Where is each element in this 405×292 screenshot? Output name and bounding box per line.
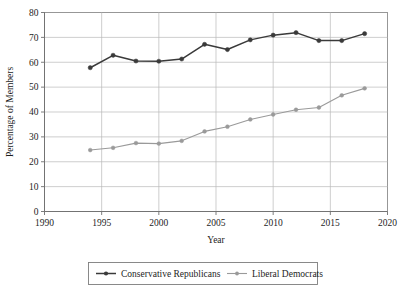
y-tick-label: 20 — [29, 157, 39, 167]
data-point — [225, 47, 229, 51]
x-tick-label: 1990 — [35, 218, 54, 228]
data-point — [88, 148, 92, 152]
data-point — [271, 33, 275, 37]
x-tick-label: 2010 — [264, 218, 283, 228]
legend-swatch-marker — [235, 272, 239, 276]
y-tick-label: 30 — [29, 132, 39, 142]
x-axis-title: Year — [207, 235, 225, 245]
data-point — [363, 32, 367, 36]
y-tick-label: 40 — [29, 107, 39, 117]
data-point — [248, 118, 252, 122]
data-point — [157, 59, 161, 63]
data-point — [271, 113, 275, 117]
x-tick-label: 2020 — [378, 218, 397, 228]
data-point — [111, 53, 115, 57]
legend-label: Conservative Republicans — [121, 269, 221, 279]
data-point — [202, 42, 206, 46]
data-point — [88, 66, 92, 70]
legend-label: Liberal Democrats — [252, 269, 323, 279]
y-tick-label: 50 — [29, 82, 39, 92]
data-point — [134, 141, 138, 145]
data-point — [294, 31, 298, 35]
chart-canvas: 01020304050607080 1990199520002005201020… — [0, 0, 405, 292]
data-point — [157, 142, 161, 146]
data-point — [134, 59, 138, 63]
data-point — [317, 106, 321, 110]
line-chart: 01020304050607080 1990199520002005201020… — [0, 0, 405, 292]
legend-swatch-marker — [104, 271, 108, 275]
data-point — [340, 93, 344, 97]
data-point — [203, 130, 207, 134]
y-axis-tick-labels: 01020304050607080 — [29, 8, 39, 217]
data-point — [180, 139, 184, 143]
y-tick-label: 80 — [29, 8, 39, 18]
x-tick-label: 2015 — [321, 218, 340, 228]
data-point — [180, 57, 184, 61]
y-tick-label: 0 — [34, 207, 39, 217]
x-tick-label: 2000 — [149, 218, 168, 228]
y-tick-label: 10 — [29, 182, 39, 192]
data-point — [363, 86, 367, 90]
y-tick-label: 60 — [29, 58, 39, 68]
data-point — [248, 38, 252, 42]
x-tick-label: 1995 — [92, 218, 111, 228]
data-point — [226, 125, 230, 129]
y-axis-title: Percentage of Members — [5, 67, 15, 158]
data-point — [294, 108, 298, 112]
data-point — [317, 39, 321, 43]
x-tick-label: 2005 — [207, 218, 226, 228]
legend: Conservative RepublicansLiberal Democrat… — [96, 269, 323, 279]
y-tick-label: 70 — [29, 33, 39, 43]
data-point — [340, 39, 344, 43]
data-point — [111, 146, 115, 150]
